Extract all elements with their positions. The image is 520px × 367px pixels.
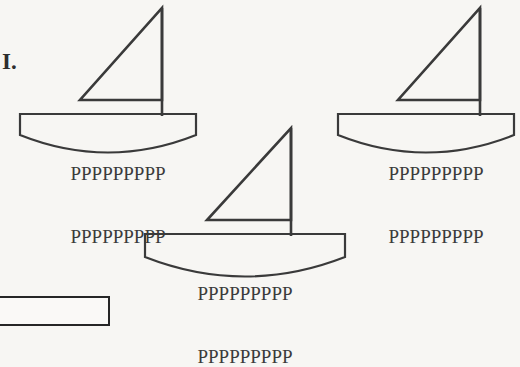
figure-label: I. [2, 50, 17, 73]
hull-text-line-1: PPPPPPPPP [336, 164, 520, 183]
bottom-left-box [0, 296, 110, 326]
hull-text-block: PPPPPPPPP PPPPPPPPP [336, 120, 520, 290]
sail-triangle-icon [398, 8, 480, 100]
sailboat-bottom: PPPPPPPPP PPPPPPPPP [143, 124, 353, 294]
hull-text-line-2: PPPPPPPPP [336, 227, 520, 246]
hull-text-line-2: PPPPPPPPP [143, 347, 347, 366]
sailboat-right: PPPPPPPPP PPPPPPPPP [336, 4, 520, 164]
hull-text-block: PPPPPPPPP PPPPPPPPP [143, 240, 347, 367]
sail-triangle-icon [80, 8, 162, 100]
sail-triangle-icon [207, 128, 291, 220]
hull-text-line-1: PPPPPPPPP [143, 284, 347, 303]
